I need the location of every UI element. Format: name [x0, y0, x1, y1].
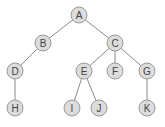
tree-node-c: C: [107, 35, 123, 51]
tree-canvas: ABCDEFGHIJK: [0, 0, 165, 127]
node-label: K: [144, 103, 151, 114]
node-label: J: [97, 103, 102, 114]
node-label: B: [40, 38, 47, 49]
tree-node-a: A: [71, 7, 87, 23]
node-label: I: [71, 103, 74, 114]
tree-node-b: B: [35, 35, 51, 51]
node-label: G: [143, 66, 151, 77]
tree-node-f: F: [107, 63, 123, 79]
edges-group: [15, 15, 147, 108]
node-label: F: [112, 66, 118, 77]
tree-diagram: ABCDEFGHIJK: [0, 0, 165, 127]
node-label: E: [81, 66, 88, 77]
nodes-group: ABCDEFGHIJK: [7, 7, 155, 116]
tree-node-j: J: [91, 100, 107, 116]
node-label: C: [111, 38, 118, 49]
tree-node-h: H: [7, 100, 23, 116]
tree-node-i: I: [64, 100, 80, 116]
tree-node-k: K: [139, 100, 155, 116]
node-label: D: [11, 66, 18, 77]
tree-node-g: G: [139, 63, 155, 79]
node-label: H: [11, 103, 18, 114]
node-label: A: [76, 10, 83, 21]
tree-node-e: E: [76, 63, 92, 79]
tree-node-d: D: [7, 63, 23, 79]
